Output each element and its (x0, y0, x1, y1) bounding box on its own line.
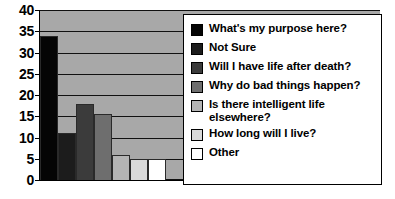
y-axis-tick-label: 20 (0, 90, 34, 100)
y-axis-tick-label: 40 (0, 5, 34, 15)
y-axis-tick-mark (35, 74, 40, 75)
bar (130, 159, 148, 180)
legend-item[interactable]: Is there intelligent life elsewhere? (191, 98, 375, 124)
legend-swatch-icon (191, 43, 203, 55)
bar-chart: 4035302520151050 What's my purpose here?… (0, 0, 395, 199)
y-axis-tick-label: 30 (0, 48, 34, 58)
y-axis-tick-mark (35, 10, 40, 11)
legend-swatch-icon (191, 148, 203, 160)
y-axis-tick-label: 5 (0, 154, 34, 164)
y-axis-tick-mark (35, 159, 40, 160)
bar (40, 36, 58, 181)
gridline (40, 10, 380, 11)
y-axis-tick-label: 15 (0, 111, 34, 121)
bar (94, 114, 112, 180)
chart-legend: What's my purpose here?Not SureWill I ha… (183, 14, 382, 185)
y-axis-tick-mark (35, 95, 40, 96)
y-axis-tick-mark (35, 53, 40, 54)
legend-item-label: Why do bad things happen? (209, 79, 360, 92)
bar (58, 133, 76, 180)
bar (112, 155, 130, 181)
legend-item[interactable]: Other (191, 146, 375, 162)
y-axis: 4035302520151050 (0, 10, 34, 182)
legend-item-label: What's my purpose here? (209, 22, 347, 35)
legend-item-label: Is there intelligent life elsewhere? (209, 98, 325, 124)
y-axis-tick-mark (35, 116, 40, 117)
legend-swatch-icon (191, 24, 203, 36)
legend-item[interactable]: Not Sure (191, 41, 375, 57)
legend-item[interactable]: How long will I live? (191, 127, 375, 143)
y-axis-tick-label: 0 (0, 175, 34, 185)
legend-swatch-icon (191, 62, 203, 74)
y-axis-tick-label: 25 (0, 69, 34, 79)
legend-swatch-icon (191, 129, 203, 141)
legend-swatch-icon (191, 100, 203, 112)
legend-item-label: Will I have life after death? (209, 60, 351, 73)
y-axis-tick-mark (35, 138, 40, 139)
legend-item[interactable]: Will I have life after death? (191, 60, 375, 76)
bar (148, 159, 166, 180)
y-axis-tick-mark (35, 31, 40, 32)
y-axis-tick-label: 10 (0, 133, 34, 143)
legend-item[interactable]: What's my purpose here? (191, 22, 375, 38)
legend-item-label: Other (209, 146, 239, 159)
legend-swatch-icon (191, 81, 203, 93)
legend-item-label: How long will I live? (209, 127, 316, 140)
y-axis-tick-mark (35, 180, 40, 181)
y-axis-tick-label: 35 (0, 26, 34, 36)
bar (76, 104, 94, 181)
legend-item-label: Not Sure (209, 41, 256, 54)
legend-item[interactable]: Why do bad things happen? (191, 79, 375, 95)
